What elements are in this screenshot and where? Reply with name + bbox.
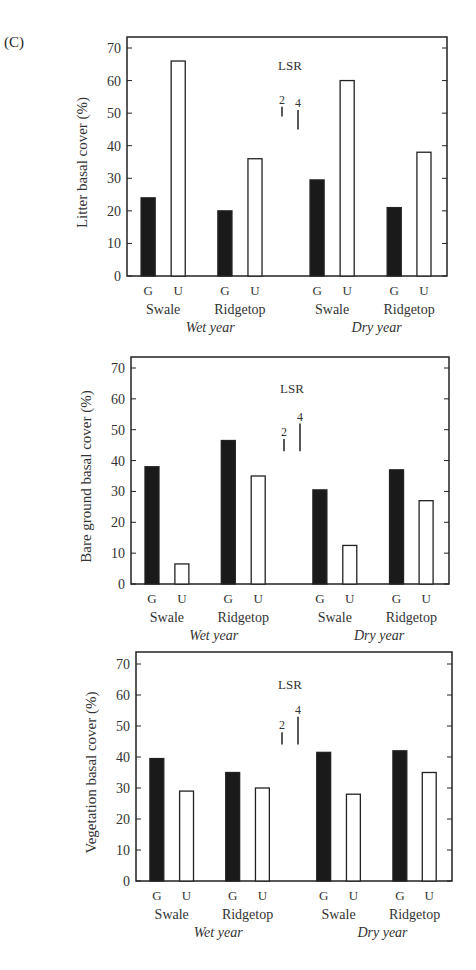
series-tick-label: G [228, 888, 237, 903]
vegetation-basal-cover-chart: 010203040506070Vegetation basal cover (%… [0, 0, 476, 970]
y-tick-label: 70 [116, 657, 130, 672]
series-tick-label: U [425, 888, 435, 903]
y-tick-label: 0 [123, 874, 130, 889]
site-label: Swale [155, 907, 189, 922]
bar-wet-ridgetop-g [226, 773, 240, 882]
bar-dry-ridgetop-u [422, 773, 436, 882]
bar-wet-ridgetop-u [255, 788, 269, 881]
site-label: Ridgetop [222, 907, 273, 922]
lsr-bar-2-label: 2 [279, 718, 285, 732]
y-tick-label: 60 [116, 688, 130, 703]
series-tick-label: G [395, 888, 404, 903]
bar-dry-swale-u [346, 794, 360, 881]
bar-wet-swale-g [150, 759, 164, 881]
y-tick-label: 10 [116, 843, 130, 858]
y-tick-label: 20 [116, 812, 130, 827]
series-tick-label: U [349, 888, 359, 903]
site-label: Ridgetop [389, 907, 440, 922]
series-tick-label: U [182, 888, 192, 903]
site-label: Swale [321, 907, 355, 922]
y-tick-label: 50 [116, 719, 130, 734]
lsr-bar-4-label: 4 [295, 703, 301, 717]
lsr-label: LSR [278, 677, 302, 692]
series-tick-label: G [152, 888, 161, 903]
bar-dry-swale-g [317, 752, 331, 881]
y-tick-label: 30 [116, 781, 130, 796]
series-tick-label: U [258, 888, 268, 903]
series-tick-label: G [319, 888, 328, 903]
y-axis-label: Vegetation basal cover (%) [83, 691, 100, 853]
y-tick-label: 40 [116, 750, 130, 765]
year-label-wet: Wet year [194, 925, 243, 940]
bar-dry-ridgetop-g [393, 751, 407, 881]
bar-wet-swale-u [180, 791, 194, 881]
year-label-dry: Dry year [356, 925, 408, 940]
